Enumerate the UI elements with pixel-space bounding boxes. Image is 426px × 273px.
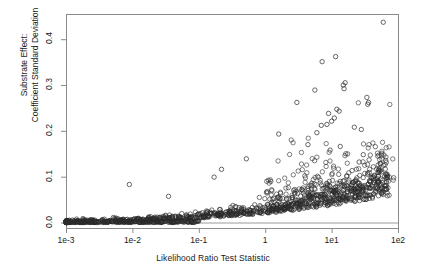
data-point (166, 194, 170, 198)
data-points (64, 20, 396, 225)
data-point (283, 176, 287, 180)
data-point (361, 142, 365, 146)
data-point (127, 182, 131, 186)
data-point (368, 153, 372, 157)
data-point (333, 54, 337, 58)
data-point (367, 167, 371, 171)
data-point (212, 175, 216, 179)
data-point (337, 172, 341, 176)
data-point (295, 100, 299, 104)
data-point (276, 179, 280, 183)
data-point (326, 111, 330, 115)
y-tick-label: 0.1 (44, 167, 54, 185)
data-point (284, 192, 288, 196)
data-point (345, 161, 349, 165)
data-point (320, 170, 324, 174)
data-point (306, 136, 310, 140)
data-point (320, 59, 324, 63)
data-point (359, 127, 363, 131)
data-point (304, 163, 308, 167)
data-point (313, 88, 317, 92)
data-point (365, 95, 369, 99)
data-point (276, 159, 280, 163)
data-point (219, 167, 223, 171)
data-point (381, 20, 385, 24)
y-axis-title-line-1: Substrate Effect: (19, 0, 30, 165)
x-tick-label: 1e-3 (57, 235, 74, 245)
data-point (324, 141, 328, 145)
data-point (299, 162, 303, 166)
data-point (291, 173, 295, 177)
data-point (330, 178, 334, 182)
data-point (244, 157, 248, 161)
data-point (328, 159, 332, 163)
data-point (338, 144, 342, 148)
data-point (315, 130, 319, 134)
x-tick-label: 1e-1 (190, 235, 207, 245)
data-point (257, 195, 261, 199)
data-point (303, 180, 307, 184)
data-point (277, 132, 281, 136)
data-point (269, 193, 273, 197)
data-point (325, 122, 329, 126)
x-tick-label: 1 (263, 235, 268, 245)
plot-canvas (0, 0, 426, 273)
y-axis-ticks (61, 40, 66, 223)
data-point (388, 102, 392, 106)
y-tick-label: 0.3 (44, 75, 54, 93)
data-point (306, 142, 310, 146)
scatter-plot-figure: Substrate Effect: Coefficient Standard D… (0, 0, 426, 273)
data-point (287, 152, 291, 156)
data-point (352, 125, 356, 129)
data-point (336, 167, 340, 171)
x-tick-label: 1e2 (391, 235, 405, 245)
data-point (358, 173, 362, 177)
data-point (350, 168, 354, 172)
data-point (391, 157, 395, 161)
x-tick-label: 1e1 (325, 235, 339, 245)
y-tick-label: 0.2 (44, 121, 54, 139)
data-point (387, 145, 391, 149)
data-point (367, 158, 371, 162)
data-point (296, 169, 300, 173)
data-point (361, 152, 365, 156)
y-tick-label: 0.0 (44, 213, 54, 231)
x-tick-label: 1e-2 (124, 235, 141, 245)
x-axis-title: Likelihood Ratio Test Statistic (0, 253, 426, 263)
data-point (365, 162, 369, 166)
y-tick-label: 0.4 (44, 29, 54, 47)
data-point (356, 101, 360, 105)
data-point (384, 146, 388, 150)
data-point (286, 181, 290, 185)
data-point (329, 119, 333, 123)
data-point (319, 123, 323, 127)
data-point (380, 140, 384, 144)
data-point (299, 150, 303, 154)
data-point (263, 196, 267, 200)
y-axis-title-line-2: Coefficient Standard Deviation (30, 0, 41, 165)
